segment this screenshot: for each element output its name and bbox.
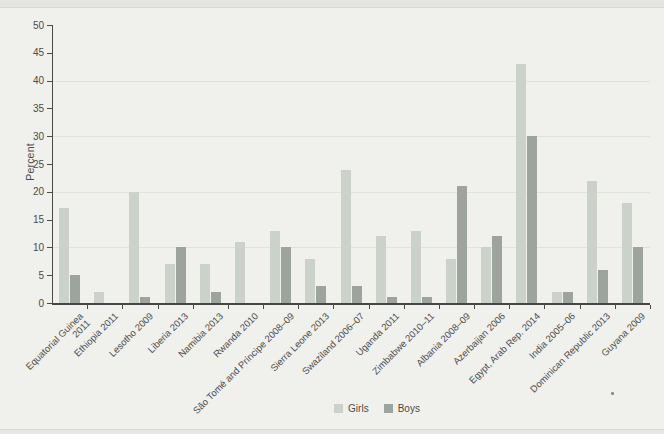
bar-girls-3 (165, 264, 175, 303)
bar-boys-2 (140, 297, 150, 303)
y-tick-label-0: 0 (18, 298, 44, 309)
bar-girls-16 (622, 203, 632, 303)
bar-girls-5 (235, 242, 245, 303)
y-tick-label-30: 30 (18, 131, 44, 142)
page-top-edge (0, 0, 664, 8)
x-tick-13 (509, 305, 510, 309)
bar-girls-2 (129, 192, 139, 303)
bar-boys-8 (352, 286, 362, 303)
x-tick-4 (193, 305, 194, 309)
y-tick-label-35: 35 (18, 103, 44, 114)
x-tick-12 (474, 305, 475, 309)
bar-girls-8 (341, 170, 351, 303)
bar-girls-14 (552, 292, 562, 303)
boys-swatch-icon (384, 404, 393, 413)
bar-boys-10 (422, 297, 432, 303)
y-tick-label-25: 25 (18, 159, 44, 170)
bar-boys-7 (316, 286, 326, 303)
bar-boys-0 (70, 275, 80, 303)
y-tick-label-15: 15 (18, 214, 44, 225)
y-tick-label-40: 40 (18, 75, 44, 86)
bar-boys-11 (457, 186, 467, 303)
gridline-20 (53, 192, 650, 193)
bar-boys-6 (281, 247, 291, 303)
x-tick-6 (263, 305, 264, 309)
y-tick-label-20: 20 (18, 186, 44, 197)
bar-girls-9 (376, 236, 386, 303)
gridline-40 (53, 81, 650, 82)
bar-boys-13 (527, 136, 537, 303)
bar-girls-0 (59, 208, 69, 303)
x-tick-17 (650, 305, 651, 309)
bar-girls-6 (270, 231, 280, 303)
page-bottom-edge (0, 429, 664, 434)
bar-boys-9 (387, 297, 397, 303)
bar-boys-16 (633, 247, 643, 303)
x-tick-15 (580, 305, 581, 309)
x-tick-3 (158, 305, 159, 309)
bar-girls-13 (516, 64, 526, 303)
x-axis (52, 303, 650, 305)
bar-girls-1 (94, 292, 104, 303)
y-tick-label-50: 50 (18, 20, 44, 31)
x-tick-2 (122, 305, 123, 309)
bar-girls-7 (305, 259, 315, 303)
bar-boys-14 (563, 292, 573, 303)
bar-girls-4 (200, 264, 210, 303)
x-tick-8 (333, 305, 334, 309)
x-tick-10 (404, 305, 405, 309)
y-tick-label-10: 10 (18, 242, 44, 253)
y-axis (52, 25, 53, 303)
x-tick-11 (439, 305, 440, 309)
bar-boys-4 (211, 292, 221, 303)
bar-boys-15 (598, 270, 608, 303)
y-tick-label-45: 45 (18, 47, 44, 58)
gridline-10 (53, 247, 650, 248)
bar-girls-12 (481, 247, 491, 303)
bar-boys-3 (176, 247, 186, 303)
bar-girls-10 (411, 231, 421, 303)
x-tick-9 (369, 305, 370, 309)
x-tick-5 (228, 305, 229, 309)
y-tick-label-5: 5 (18, 270, 44, 281)
x-tick-16 (615, 305, 616, 309)
x-tick-14 (544, 305, 545, 309)
scan-speck (611, 392, 614, 395)
bar-girls-15 (587, 181, 597, 303)
bar-girls-11 (446, 259, 456, 303)
bar-chart-figure: Percent Girls Boys 05101520253035404550E… (0, 0, 664, 434)
bar-boys-12 (492, 236, 502, 303)
x-tick-7 (298, 305, 299, 309)
gridline-30 (53, 136, 650, 137)
x-tick-1 (87, 305, 88, 309)
